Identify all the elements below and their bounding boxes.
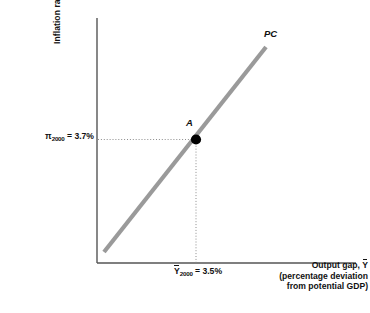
x-axis-title-symbol: Y — [362, 260, 368, 270]
phillips-curve-figure: Inflation rate, π π2000 = 3.7% Y2000 = 3… — [0, 0, 370, 313]
y-axis-title: Inflation rate, π — [52, 0, 62, 44]
phillips-curve-line — [104, 47, 266, 252]
x-axis-title-line3: from potential GDP) — [287, 281, 368, 291]
y-axis-title-text: Inflation rate, π — [52, 0, 62, 44]
x-axis-title-line2: (percentage deviation — [279, 271, 368, 281]
pi-equals-value: = 3.7% — [65, 131, 94, 141]
x-axis-title-symbol-overbar: Y — [362, 260, 368, 271]
ygap-symbol: Y — [174, 266, 180, 276]
ygap-symbol-overbar: Y — [174, 266, 180, 276]
ygap-subscript: 2000 — [180, 270, 193, 277]
overbar-mark — [174, 265, 179, 266]
pc-curve-label: PC — [264, 28, 277, 39]
pi-symbol: π — [45, 131, 52, 141]
x-axis-title-line1-prefix: Output gap, — [312, 260, 363, 270]
point-a-marker — [191, 134, 201, 144]
x-axis-value-label: Y2000 = 3.5% — [143, 266, 253, 277]
x-axis-title: Output gap, Y(percentage deviationfrom p… — [252, 260, 368, 292]
pi-subscript: 2000 — [52, 135, 65, 142]
point-a-label: A — [186, 117, 193, 128]
y-axis-value-label: π2000 = 3.7% — [2, 131, 94, 142]
ygap-equals-value: = 3.5% — [193, 266, 222, 276]
overbar-mark — [363, 259, 368, 260]
